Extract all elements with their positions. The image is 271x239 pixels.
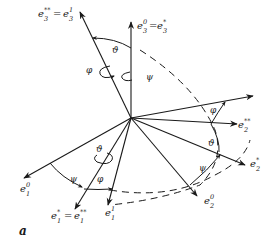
- angle-theta-right: ϑ: [208, 138, 215, 148]
- svg-text:3: 3: [69, 15, 73, 23]
- svg-text:2: 2: [255, 165, 260, 173]
- svg-text:3: 3: [163, 27, 167, 35]
- svg-text:1: 1: [111, 214, 115, 222]
- angle-psi-bottom: ψ: [70, 174, 78, 184]
- svg-text:**: **: [244, 117, 251, 125]
- svg-text:0: 0: [26, 181, 30, 189]
- svg-text:1: 1: [69, 6, 73, 14]
- axis-e1-0: [24, 118, 131, 178]
- svg-text:2: 2: [209, 202, 214, 210]
- svg-text:3: 3: [143, 27, 147, 35]
- svg-text:*: *: [57, 208, 61, 216]
- svg-text:**: **: [44, 6, 51, 14]
- angle-phi-bottom: φ: [97, 174, 104, 184]
- svg-text:0: 0: [143, 18, 147, 26]
- label-e3-top-right: e 0 3 = e * 3: [137, 18, 167, 35]
- angle-phi-right: φ: [210, 105, 217, 115]
- angle-psi-center: ψ: [146, 72, 154, 82]
- label-e1-star: e * 1 = e ** 1: [51, 208, 87, 225]
- angle-theta-top: ϑ: [112, 45, 119, 55]
- svg-text:1: 1: [111, 205, 115, 213]
- angle-theta-bottom: ϑ: [96, 144, 103, 154]
- label-e2-star: e * 2: [250, 156, 260, 173]
- svg-text:1: 1: [26, 190, 30, 198]
- axis-e2-0: [131, 118, 197, 196]
- label-e1-one: e 1 1: [105, 205, 115, 222]
- arc-psi-bottom: [50, 163, 82, 187]
- svg-text:3: 3: [44, 15, 48, 23]
- label-e3-top-left: e ** 3 = e 1 3: [38, 6, 73, 23]
- dashed-arc-lower: [110, 140, 250, 193]
- svg-text:**: **: [80, 208, 87, 216]
- panel-label: a: [19, 224, 27, 238]
- svg-text:0: 0: [210, 193, 214, 201]
- svg-text:2: 2: [243, 126, 248, 134]
- svg-text:=: =: [53, 8, 61, 19]
- axis-e2-star: [131, 118, 245, 165]
- svg-text:*: *: [256, 156, 260, 164]
- svg-text:1: 1: [57, 217, 61, 225]
- label-e2-zero: e 0 2: [204, 193, 214, 210]
- svg-text:1: 1: [80, 217, 84, 225]
- axis-e2-phi: [131, 96, 253, 118]
- axis-e2-double-star: [131, 118, 237, 124]
- angle-psi-right: ψ: [199, 163, 207, 173]
- arc-phi-bottom: [84, 189, 112, 190]
- label-e1-zero: e 0 1: [20, 181, 30, 198]
- label-e2-double-star: e ** 2: [238, 117, 251, 134]
- euler-angles-diagram: ϑ φ ψ φ ϑ ψ ϑ ψ φ e ** 3 = e 1 3 e 0 3 =…: [0, 0, 271, 239]
- svg-text:*: *: [163, 18, 167, 26]
- svg-text:=: =: [64, 210, 72, 221]
- angle-phi-left: φ: [86, 65, 93, 75]
